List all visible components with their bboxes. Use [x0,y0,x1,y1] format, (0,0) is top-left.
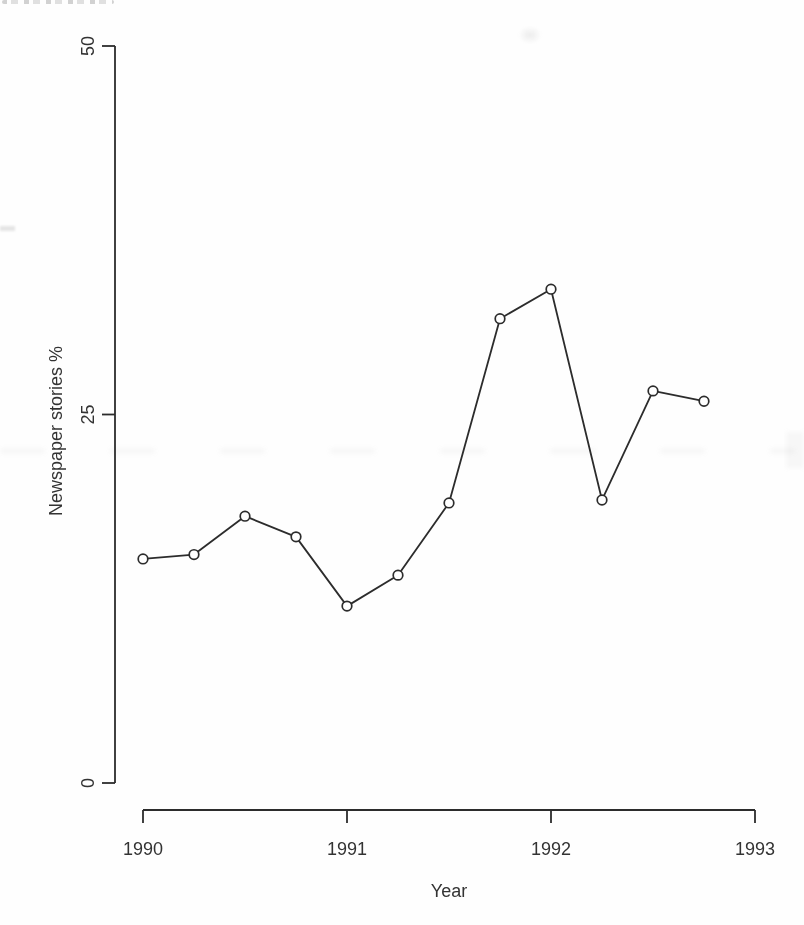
x-tick-label: 1993 [735,839,775,859]
y-tick-label: 0 [78,778,98,788]
data-point-marker [597,495,607,505]
x-tick-label: 1992 [531,839,571,859]
y-axis-title: Newspaper stories % [46,346,67,516]
data-point-marker [342,601,352,611]
x-axis-title: Year [431,881,467,902]
x-tick-label: 1990 [123,839,163,859]
data-point-marker [699,396,709,406]
line-chart-figure: 025501990199119921993 Year Newspaper sto… [0,0,804,925]
y-tick-label: 25 [78,404,98,424]
chart-svg: 025501990199119921993 [0,0,804,925]
data-point-marker [546,284,556,294]
data-point-marker [189,550,199,560]
data-point-marker [648,386,658,396]
data-point-marker [291,532,301,542]
y-tick-label: 50 [78,36,98,56]
data-point-marker [495,314,505,324]
data-point-marker [138,554,148,564]
data-point-marker [444,498,454,508]
series-line [143,289,704,606]
data-point-marker [393,570,403,580]
data-point-marker [240,511,250,521]
scanned-page: 025501990199119921993 Year Newspaper sto… [0,0,804,925]
x-tick-label: 1991 [327,839,367,859]
